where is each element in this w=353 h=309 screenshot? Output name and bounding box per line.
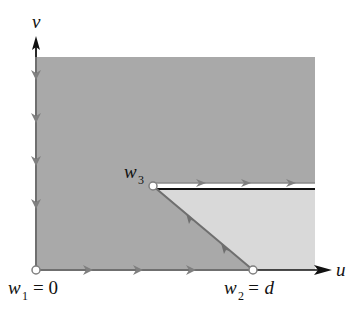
v-axis-label: v [32,11,41,32]
point-w3 [149,182,157,190]
svg-text:w: w [224,277,237,298]
svg-text:w: w [8,277,21,298]
u-axis-label: u [336,259,346,280]
svg-text:= 0: = 0 [33,277,58,298]
svg-text:1: 1 [22,289,28,303]
point-w2 [249,266,257,274]
svg-text:= d: = d [247,277,275,298]
label-w1: w 1 = 0 [8,277,58,303]
diagram-canvas: v u w 1 = 0 w 2 = d w 3 [0,0,353,309]
point-w1 [32,266,40,274]
svg-text:w: w [124,161,137,182]
svg-text:3: 3 [138,173,144,187]
label-w2: w 2 = d [224,277,275,303]
svg-text:2: 2 [238,289,244,303]
